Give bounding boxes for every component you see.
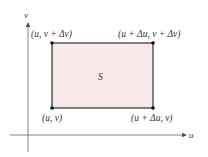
corner-label-top-right: (u + Δu, v + Δv) [118, 29, 180, 40]
corner-label-top-left: (u, v + Δv) [31, 29, 72, 40]
corner-point-bottom-right [151, 106, 155, 110]
corner-label-bottom-right: (u + Δu, v) [131, 113, 173, 124]
v-axis-label: v [24, 10, 28, 20]
region-label: S [98, 72, 103, 82]
diagram-canvas: v u S (u, v + Δv) (u + Δu, v + Δv) (u, v… [0, 0, 208, 157]
corner-point-top-left [50, 41, 54, 45]
corner-point-top-right [151, 41, 155, 45]
u-axis-label: u [189, 130, 194, 140]
corner-point-bottom-left [50, 106, 54, 110]
corner-label-bottom-left: (u, v) [42, 113, 62, 124]
